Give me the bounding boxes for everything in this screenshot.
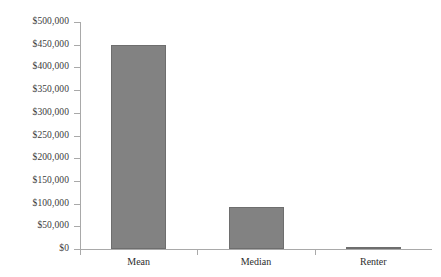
y-tick-label: $500,000 xyxy=(33,17,69,27)
y-tick-mark xyxy=(74,45,80,46)
y-tick-mark xyxy=(74,226,80,227)
y-tick-mark xyxy=(74,67,80,68)
y-tick-mark xyxy=(74,204,80,205)
bar-renter xyxy=(346,247,401,249)
x-category-label-renter: Renter xyxy=(315,256,432,268)
y-tick-label: $300,000 xyxy=(33,108,69,118)
y-tick-label: $400,000 xyxy=(33,62,69,72)
x-tick-mark xyxy=(197,249,198,255)
y-tick-label: $0 xyxy=(59,244,69,254)
y-tick-label: $200,000 xyxy=(33,153,69,163)
y-tick-label: $250,000 xyxy=(33,131,69,141)
y-tick-mark xyxy=(74,113,80,114)
y-tick-mark xyxy=(74,90,80,91)
y-tick-label: $350,000 xyxy=(33,85,69,95)
y-tick-mark xyxy=(74,136,80,137)
x-category-label-mean: Mean xyxy=(80,256,197,268)
x-tick-mark xyxy=(315,249,316,255)
y-tick-mark xyxy=(74,22,80,23)
y-tick-label: $450,000 xyxy=(33,40,69,50)
y-tick-mark xyxy=(74,158,80,159)
y-tick-label: $50,000 xyxy=(37,221,69,231)
bar-mean xyxy=(111,45,166,249)
bar-chart: $0$50,000$100,000$150,000$200,000$250,00… xyxy=(0,0,441,277)
y-axis-line xyxy=(80,22,81,250)
x-category-label-median: Median xyxy=(197,256,314,268)
y-tick-label: $100,000 xyxy=(33,199,69,209)
y-tick-label: $150,000 xyxy=(33,176,69,186)
y-tick-mark xyxy=(74,181,80,182)
x-axis-line xyxy=(80,249,432,250)
bar-median xyxy=(229,207,284,249)
x-tick-mark xyxy=(80,249,81,255)
